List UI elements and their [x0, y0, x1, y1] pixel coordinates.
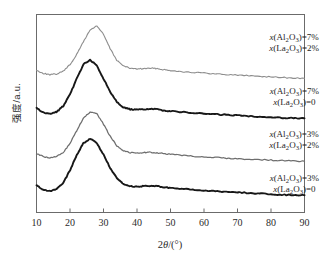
x-tick-label: 20	[65, 217, 75, 228]
series-label-1: x(Al2O3)=7% x(La2O3)=2%	[269, 32, 319, 54]
series-label-3-line1: x(Al2O3)=3%	[269, 129, 319, 140]
series-label-1-line1: x(Al2O3)=7%	[269, 32, 319, 43]
series-label-4-line2: x(La2O3)=0	[270, 184, 319, 195]
series-label-2-line2: x(La2O3)=0	[270, 97, 319, 108]
x-axis-tick-labels: 102030405060708090	[32, 217, 310, 228]
x-tick-label: 90	[300, 217, 310, 228]
series-label-2: x(Al2O3)=7% x(La2O3)=0	[270, 86, 319, 108]
xrd-trace	[37, 60, 305, 119]
plot-frame	[37, 15, 305, 213]
xrd-figure: 强度/a.u. 102030405060708090 2θ/(°) x(Al2O…	[0, 0, 325, 261]
xrd-curves	[37, 26, 305, 196]
x-tick-label: 60	[199, 217, 209, 228]
y-axis-title: 强度/a.u.	[9, 67, 23, 139]
x-tick-label: 50	[166, 217, 176, 228]
x-axis-title: 2θ/(°)	[158, 239, 183, 251]
x-tick-label: 10	[32, 217, 42, 228]
xrd-trace	[37, 139, 305, 196]
x-tick-label: 80	[266, 217, 276, 228]
series-label-2-line1: x(Al2O3)=7%	[270, 86, 319, 97]
x-axis-ticks	[37, 209, 305, 213]
x-tick-label: 70	[233, 217, 243, 228]
x-title-suffix: /(°)	[168, 239, 183, 251]
series-label-3: x(Al2O3)=3% x(La2O3)=2%	[269, 129, 319, 151]
x-tick-label: 40	[132, 217, 142, 228]
x-tick-label: 30	[99, 217, 109, 228]
series-label-3-line2: x(La2O3)=2%	[269, 140, 319, 151]
series-label-4-line1: x(Al2O3)=3%	[270, 173, 319, 184]
series-label-1-line2: x(La2O3)=2%	[269, 43, 319, 54]
xrd-trace	[37, 26, 305, 79]
series-label-4: x(Al2O3)=3% x(La2O3)=0	[270, 173, 319, 195]
